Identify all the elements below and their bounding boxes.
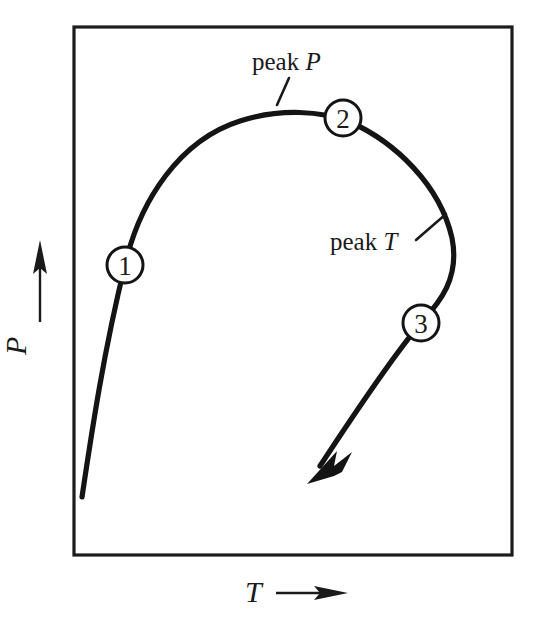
annotation-peak-t-prefix: peak (330, 228, 378, 255)
x-axis-label: T (245, 575, 264, 608)
x-axis-label-group: T (245, 575, 348, 608)
annotation-peak-p: peak P (252, 48, 321, 75)
annotation-peak-t-variable: T (383, 228, 399, 255)
state-point-1-label: 1 (118, 251, 132, 281)
annotation-peak-p-variable: P (304, 48, 320, 75)
state-point-3-label: 3 (414, 309, 428, 339)
annotation-peak-p-prefix: peak (252, 48, 300, 75)
pt-diagram-figure: peak P peak T 1 2 3 P T (0, 0, 540, 621)
state-point-1: 1 (107, 247, 143, 283)
y-axis-label: P (0, 337, 32, 356)
pt-diagram-canvas: peak P peak T 1 2 3 P T (0, 0, 540, 621)
state-point-2-label: 2 (336, 104, 350, 134)
y-axis-label-group: P (0, 240, 47, 356)
annotation-peak-t: peak T (330, 228, 399, 255)
state-point-3: 3 (403, 305, 439, 341)
state-point-2: 2 (325, 100, 361, 136)
